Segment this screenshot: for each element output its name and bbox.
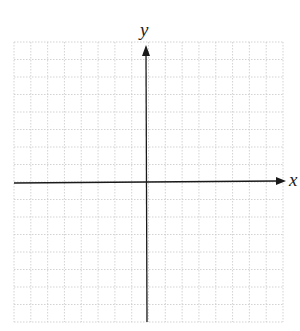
x-axis-label: x	[289, 170, 297, 189]
y-axis-arrow-icon	[142, 45, 150, 56]
x-axis-arrow-icon	[276, 177, 286, 185]
coordinate-plane	[0, 0, 300, 331]
y-axis-label: y	[140, 20, 148, 39]
